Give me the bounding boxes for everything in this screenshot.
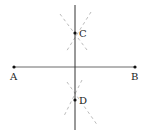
label-d: D	[79, 95, 87, 106]
point-c	[73, 31, 76, 34]
point-b	[133, 65, 136, 68]
label-c: C	[79, 28, 87, 39]
point-d	[73, 98, 76, 101]
label-a: A	[9, 71, 18, 82]
label-b: B	[131, 71, 138, 82]
point-a	[12, 65, 15, 68]
construction-diagram: A B C D	[0, 0, 147, 140]
